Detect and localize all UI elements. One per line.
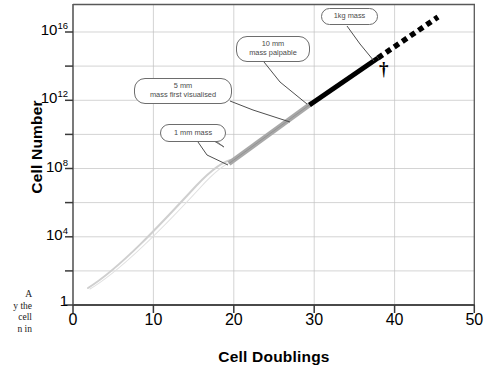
leader-1mm <box>198 142 228 165</box>
xtick-label-50: 50 <box>454 311 484 329</box>
annotation-5mm-mass: 5 mm mass first visualised <box>134 78 232 104</box>
xtick-label-0: 0 <box>53 311 93 329</box>
leader-1kg <box>347 26 374 61</box>
ytick-label-1: 1 <box>16 292 68 309</box>
curve-clinical <box>310 58 379 105</box>
leader-10mm <box>264 62 307 104</box>
grid-horizontal <box>73 32 475 271</box>
curve-projected <box>378 17 438 58</box>
ytick-label-10e4: 104 <box>16 226 68 243</box>
xtick-label-20: 20 <box>214 311 254 329</box>
annotation-10mm-mass: 10 mm mass palpable <box>236 36 310 62</box>
annotation-1mm-mass: 1 mm mass <box>160 124 226 142</box>
x-axis-title: Cell Doublings <box>73 348 475 366</box>
curve-detectable-edge <box>229 103 312 164</box>
annotation-1kg-mass: 1kg mass <box>321 8 378 25</box>
leader-5mm <box>230 101 290 122</box>
ytick-label-10e16: 1016 <box>16 21 68 38</box>
y-axis-title: Cell Number <box>28 77 46 217</box>
xtick-label-40: 40 <box>375 311 415 329</box>
figure-container: A y the cell n in <box>0 0 484 375</box>
death-dagger-marker: † <box>379 59 389 78</box>
xtick-label-30: 30 <box>294 311 334 329</box>
curve-subclinical <box>88 160 234 289</box>
xtick-label-10: 10 <box>133 311 173 329</box>
